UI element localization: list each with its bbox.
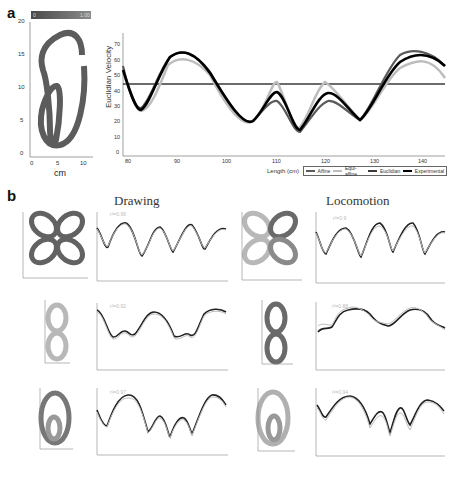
- locomotion-spiral-trajectory: [258, 392, 288, 444]
- traj-ytick-20: 20: [18, 18, 25, 24]
- legend-swatch-equi-affine: [333, 170, 342, 172]
- ytick-40: 40: [114, 88, 120, 94]
- traj-xlabel: cm: [54, 168, 66, 178]
- velocity-ylabel: Euclidian Velocity: [104, 46, 113, 108]
- ytick-20: 20: [114, 118, 120, 124]
- locomotion-figure-eight-trajectory: [267, 304, 285, 362]
- traj-xtick-10: 10: [80, 160, 87, 166]
- locomotion-quatrefoil-model: [316, 226, 445, 256]
- annotation-drawing-quatrefoil: r²=0.96: [110, 211, 126, 217]
- legend-label-affine: Affine: [318, 168, 331, 174]
- traj-ytick-15: 15: [18, 51, 25, 57]
- panel-a-spiral-trajectory: [41, 33, 84, 145]
- drawing-figure-eight-trajectory: [48, 305, 66, 359]
- xtick-140: 140: [418, 158, 427, 164]
- legend: Affine Equi-affine Euclidian Experimenta…: [303, 166, 447, 176]
- xtick-90: 90: [174, 158, 180, 164]
- locomotion-quatrefoil-trajectory: [240, 208, 300, 267]
- xtick-100: 100: [222, 158, 231, 164]
- locomotion-figure-eight-axes: [262, 300, 445, 370]
- ytick-70: 70: [114, 41, 120, 47]
- traj-ytick-5: 5: [20, 117, 23, 123]
- drawing-quatrefoil-trajectory: [27, 208, 87, 267]
- traj-ytick-0: 0: [20, 150, 23, 156]
- locomotion-figure-eight-velocity: [318, 309, 445, 332]
- ytick-10: 10: [114, 134, 120, 140]
- legend-label-experimental: Experimental: [415, 168, 444, 174]
- ytick-60: 60: [114, 57, 120, 63]
- annotation-drawing-spiral: r²=0.97: [110, 389, 126, 395]
- ytick-0: 0: [116, 149, 119, 155]
- legend-swatch-euclidian: [368, 170, 377, 172]
- drawing-figure-eight-axes: [45, 300, 228, 370]
- legend-label-euclidian: Euclidian: [380, 168, 400, 174]
- drawing-spiral-trajectory: [41, 393, 69, 443]
- annotation-locomotion-figure-eight: r²=0.88: [332, 303, 348, 309]
- traj-ytick-10: 10: [18, 84, 25, 90]
- colorbar-tick-min: 0: [33, 12, 36, 18]
- locomotion-spiral-velocity: [317, 396, 444, 433]
- legend-label-equi-affine: Equi-affine: [345, 165, 365, 177]
- series-equi-affine: [123, 59, 445, 128]
- drawing-quatrefoil-velocity: [97, 223, 226, 256]
- traj-xtick-0: 0: [30, 160, 33, 166]
- ytick-30: 30: [114, 103, 120, 109]
- colorbar-tick-max: 1.00: [80, 12, 90, 18]
- annotation-locomotion-spiral: r²=0.94: [332, 389, 348, 395]
- figure-canvas: [0, 0, 467, 480]
- xtick-130: 130: [370, 158, 379, 164]
- velocity-xlabel: Length (cm): [267, 168, 299, 174]
- legend-swatch-experimental: [403, 170, 412, 172]
- xtick-80: 80: [125, 158, 131, 164]
- annotation-locomotion-quatrefoil: r²=0.9: [333, 215, 346, 221]
- traj-xtick-5: 5: [56, 160, 59, 166]
- series-experimental: [123, 52, 445, 130]
- legend-swatch-affine: [306, 170, 315, 172]
- panel-a-velocity-axes: [123, 33, 445, 156]
- annotation-drawing-figure-eight: r²=0.92: [110, 303, 126, 309]
- xtick-120: 120: [321, 158, 330, 164]
- xtick-110: 110: [272, 158, 281, 164]
- ytick-50: 50: [114, 72, 120, 78]
